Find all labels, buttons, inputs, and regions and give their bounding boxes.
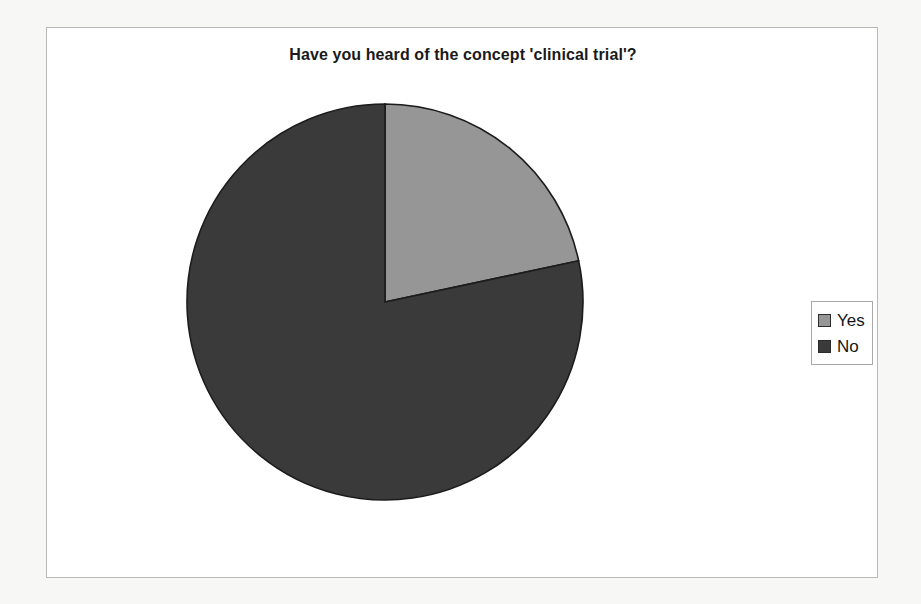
legend-swatch-no-icon (818, 340, 831, 353)
legend-label-yes: Yes (837, 312, 865, 329)
legend-item-yes[interactable]: Yes (818, 307, 865, 333)
pie-slices-group (187, 104, 583, 500)
legend-item-no[interactable]: No (818, 333, 865, 359)
chart-frame: Have you heard of the concept 'clinical … (46, 27, 878, 578)
legend-label-no: No (837, 338, 859, 355)
chart-legend: Yes No (811, 301, 873, 365)
pie-chart-svg (183, 100, 587, 504)
pie-chart-area (47, 28, 879, 579)
legend-swatch-yes-icon (818, 314, 831, 327)
